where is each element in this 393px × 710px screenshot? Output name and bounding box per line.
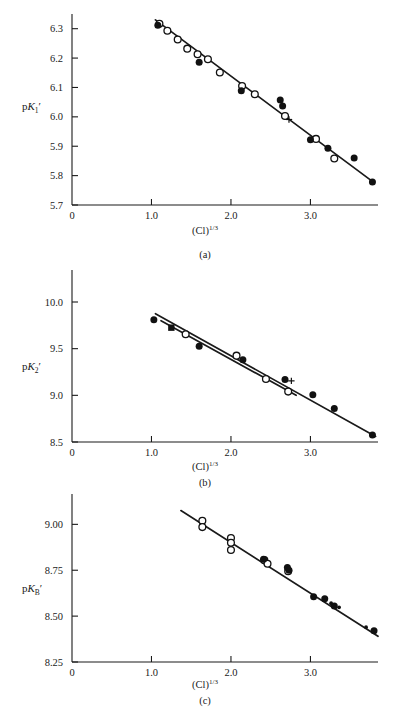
data-point-open-circle xyxy=(194,51,201,58)
data-point-filled-circle xyxy=(285,567,292,574)
x-tick-label: 0 xyxy=(69,210,74,221)
y-axis-title: pKB′ xyxy=(22,582,42,597)
y-tick-label: 8.50 xyxy=(45,611,63,622)
data-point-filled-circle xyxy=(369,432,376,439)
y-tick-label: 9.00 xyxy=(45,519,63,530)
data-point-open-circle xyxy=(228,539,235,546)
y-tick-label: 9.5 xyxy=(50,343,63,354)
fit-line xyxy=(181,511,378,637)
panel-letter: (a) xyxy=(199,249,211,261)
data-point-open-circle xyxy=(251,91,258,98)
x-tick-label: 1.0 xyxy=(145,210,158,221)
panel-a-plot: 5.75.85.96.06.16.26.301.02.03.0pK1′(Cl)1… xyxy=(0,0,393,270)
x-axis-title: (Cl)1/3 xyxy=(192,678,218,691)
data-point-open-circle xyxy=(233,352,240,359)
x-axis-title-exponent: 1/3 xyxy=(209,460,218,468)
y-tick-label: 9.0 xyxy=(50,390,63,401)
data-point-filled-circle xyxy=(351,154,358,161)
data-point-open-circle xyxy=(263,376,270,383)
data-point-open-circle xyxy=(182,331,189,338)
data-point-filled-circle xyxy=(154,22,161,29)
data-point-filled-circle xyxy=(309,391,316,398)
data-point-open-circle xyxy=(205,56,212,63)
y-tick-label: 5.8 xyxy=(50,170,63,181)
fit-line xyxy=(155,20,374,183)
data-point-filled-circle xyxy=(371,627,378,634)
y-tick-label: 5.7 xyxy=(50,200,63,211)
data-point-open-circle xyxy=(331,155,338,162)
y-tick-label: 8.75 xyxy=(45,565,63,576)
x-tick-label: 2.0 xyxy=(224,447,237,458)
data-point-open-circle xyxy=(184,45,191,52)
x-tick-label: 3.0 xyxy=(304,210,317,221)
data-point-filled-circle xyxy=(369,179,376,186)
y-tick-label: 5.9 xyxy=(50,141,63,152)
x-tick-label: 3.0 xyxy=(304,667,317,678)
data-point-filled-circle xyxy=(310,593,317,600)
data-point-open-circle xyxy=(216,69,223,76)
panel-c: 8.258.508.759.0001.02.03.0pKB′(Cl)1/3(c) xyxy=(0,492,393,710)
y-axis-title-prime: ′ xyxy=(40,582,42,594)
y-axis-title: pK2′ xyxy=(22,360,41,375)
data-point-open-circle xyxy=(285,388,292,395)
data-point-filled-circle xyxy=(196,343,203,350)
y-tick-label: 6.2 xyxy=(50,53,63,64)
panel-letter: (c) xyxy=(199,695,211,707)
data-point-filled-circle xyxy=(239,356,246,363)
data-point-filled-circle xyxy=(279,102,286,109)
x-tick-label: 3.0 xyxy=(304,447,317,458)
y-tick-label: 6.1 xyxy=(50,82,63,93)
data-point-filled-circle xyxy=(331,405,338,412)
x-axis-title: (Cl)1/3 xyxy=(192,224,218,237)
data-point-small-dot xyxy=(337,605,341,609)
data-point-filled-circle xyxy=(307,136,314,143)
x-tick-label: 2.0 xyxy=(224,667,237,678)
data-point-filled-circle xyxy=(321,595,328,602)
x-tick-label: 0 xyxy=(69,667,74,678)
data-point-filled-square xyxy=(168,324,174,330)
y-tick-label: 8.25 xyxy=(45,657,63,668)
x-axis-title: (Cl)1/3 xyxy=(192,460,218,473)
x-axis-title-base: (Cl) xyxy=(192,679,209,691)
y-axis-title: pK1′ xyxy=(22,100,41,115)
x-axis-title-exponent: 1/3 xyxy=(209,678,218,686)
y-axis-title-prime: ′ xyxy=(39,100,41,112)
data-point-filled-circle xyxy=(238,87,245,94)
panel-letter: (b) xyxy=(199,477,212,489)
x-tick-label: 2.0 xyxy=(224,210,237,221)
panel-a: 5.75.85.96.06.16.26.301.02.03.0pK1′(Cl)1… xyxy=(0,0,393,270)
y-tick-label: 6.3 xyxy=(50,23,63,34)
data-point-open-circle xyxy=(282,113,289,120)
data-point-open-circle xyxy=(174,36,181,43)
data-point-filled-circle xyxy=(324,145,331,152)
data-point-small-dot xyxy=(329,601,333,605)
x-axis-title-base: (Cl) xyxy=(192,225,209,237)
panel-b: 8.59.09.510.001.02.03.0pK2′(Cl)1/3(b) xyxy=(0,270,393,492)
y-tick-label: 10.0 xyxy=(45,297,63,308)
data-point-open-circle xyxy=(228,547,235,554)
data-point-filled-circle xyxy=(282,376,289,383)
x-tick-label: 1.0 xyxy=(145,447,158,458)
data-point-filled-circle xyxy=(150,316,157,323)
figure-container: 5.75.85.96.06.16.26.301.02.03.0pK1′(Cl)1… xyxy=(0,0,393,710)
data-point-filled-circle xyxy=(196,59,203,66)
x-tick-label: 1.0 xyxy=(145,667,158,678)
x-axis-title-base: (Cl) xyxy=(192,461,209,473)
data-point-filled-circle xyxy=(260,556,267,563)
data-point-open-circle xyxy=(199,524,206,531)
panel-b-plot: 8.59.09.510.001.02.03.0pK2′(Cl)1/3(b) xyxy=(0,270,393,492)
data-point-open-circle xyxy=(164,27,171,34)
x-tick-label: 0 xyxy=(69,447,74,458)
y-tick-label: 8.5 xyxy=(50,437,63,448)
fit-line-secondary xyxy=(161,321,296,396)
panel-c-plot: 8.258.508.759.0001.02.03.0pKB′(Cl)1/3(c) xyxy=(0,492,393,710)
x-axis-title-exponent: 1/3 xyxy=(209,224,218,232)
y-axis-title-prime: ′ xyxy=(39,360,41,372)
y-tick-label: 6.0 xyxy=(50,111,63,122)
data-point-small-dot xyxy=(364,625,368,629)
